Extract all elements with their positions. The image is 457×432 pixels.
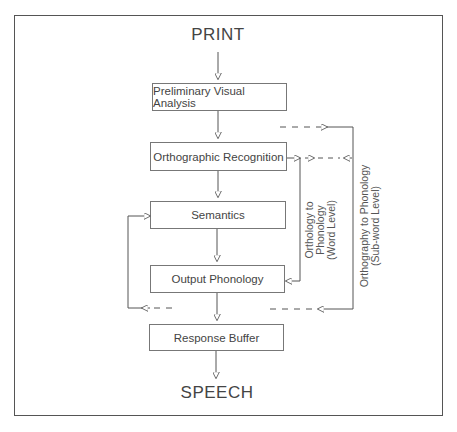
label-word-level-route: Orthology to Phonology (Word Level) — [304, 200, 337, 260]
label-subword-level-route: Orthography to Phonology (Sub-word Level… — [359, 165, 381, 288]
subword-level-line2: (Sub-word Level) — [370, 165, 381, 288]
connector-lines — [0, 0, 457, 432]
word-level-line3: (Word Level) — [326, 200, 337, 260]
